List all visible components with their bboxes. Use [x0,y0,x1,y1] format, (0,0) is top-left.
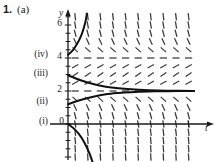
curve-label-iv: (iv) [18,49,48,59]
solution-curves [68,13,194,162]
y-tick-label-6: 6 [52,18,62,28]
y-axis-name: y [59,8,63,18]
figure-container: 1. (a) 6 4 2 0 y t (iv) (iii) (ii) (i) [0,0,219,162]
slope-field-plot [0,0,219,162]
t-axis-name: t [205,123,208,133]
curve-label-iii: (iii) [18,68,48,78]
slope-field-marks [72,13,193,160]
y-tick-label-4: 4 [52,51,62,61]
curve-label-i: (i) [18,116,48,126]
solution-curve-iv [68,13,87,54]
solution-curve-i [68,124,97,162]
solution-curve-ii [68,91,194,104]
y-tick-label-0: 0 [54,116,64,126]
y-tick-label-2: 2 [52,84,62,94]
curve-label-ii: (ii) [18,96,48,106]
